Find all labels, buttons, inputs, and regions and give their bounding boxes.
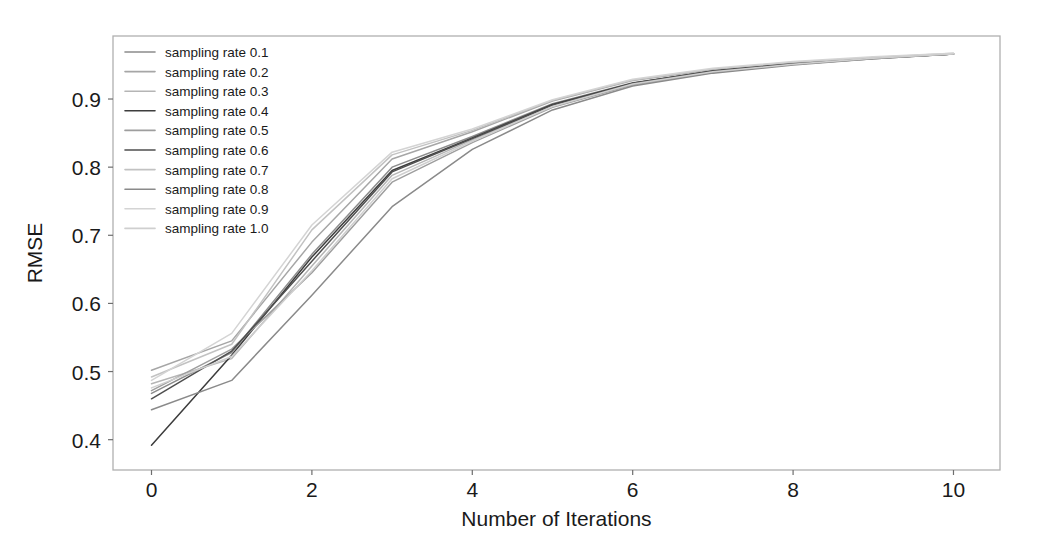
y-tick-label: 0.7 [72,224,101,247]
y-tick-label: 0.6 [72,292,101,315]
legend-label: sampling rate 0.8 [165,182,269,197]
x-tick-label: 2 [306,478,318,501]
y-tick-label: 0.4 [72,429,102,452]
series-line [152,53,954,377]
series-line [152,54,954,370]
chart-figure: 02468100.40.50.60.70.80.9Number of Itera… [0,0,1044,555]
series-line [152,54,954,445]
y-axis-label: RMSE [23,223,46,284]
legend-label: sampling rate 0.2 [165,65,269,80]
y-tick-label: 0.9 [72,88,101,111]
legend-label: sampling rate 0.3 [165,84,269,99]
legend-label: sampling rate 0.5 [165,123,269,138]
x-tick-label: 4 [466,478,478,501]
legend-label: sampling rate 0.7 [165,163,269,178]
x-tick-label: 10 [942,478,965,501]
legend-label: sampling rate 0.4 [165,104,269,119]
x-axis-label: Number of Iterations [461,507,651,530]
x-tick-label: 6 [627,478,639,501]
legend-label: sampling rate 0.1 [165,45,269,60]
x-tick-label: 0 [146,478,158,501]
legend-label: sampling rate 1.0 [165,221,269,236]
plot-frame [113,36,1000,470]
legend-label: sampling rate 0.9 [165,202,269,217]
chart-canvas: 02468100.40.50.60.70.80.9Number of Itera… [0,0,1044,555]
x-tick-label: 8 [787,478,799,501]
series-line [152,53,954,380]
legend-label: sampling rate 0.6 [165,143,269,158]
y-tick-label: 0.8 [72,156,101,179]
y-tick-label: 0.5 [72,361,101,384]
